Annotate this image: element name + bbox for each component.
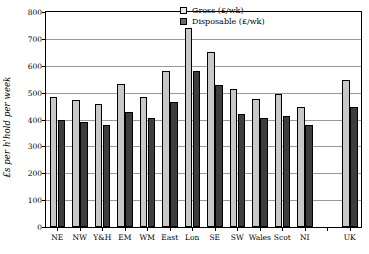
y-axis-title: £s per h'hold per week: [0, 0, 14, 254]
bar-disposable: [193, 71, 201, 227]
bar-group: [226, 12, 249, 227]
x-axis-tick-label: EM: [118, 233, 131, 242]
bar-gross: [297, 107, 305, 227]
bar-gross: [185, 28, 193, 227]
legend-item: Gross (£/wk): [180, 6, 265, 15]
bar-group: [159, 12, 182, 227]
bar-disposable: [260, 118, 268, 227]
y-axis-tick-label: 800: [28, 8, 42, 17]
y-axis-tick-label: 600: [28, 61, 42, 70]
x-axis-tick-mark: [57, 227, 58, 231]
x-axis-tick-label: East: [161, 233, 178, 242]
x-axis-tick-mark: [215, 227, 216, 231]
bar-disposable: [215, 85, 223, 227]
bar-gross: [162, 71, 170, 227]
x-axis-tick-label: Lon: [185, 233, 199, 242]
x-axis-tick-label: Wales: [249, 233, 271, 242]
legend-swatch-disposable-icon: [180, 18, 187, 25]
x-axis-tick-label: NI: [300, 233, 310, 242]
y-axis-tick-label: 400: [28, 115, 42, 124]
x-axis-tick-label: Y&H: [93, 233, 111, 242]
x-axis-tick-label: SE: [209, 233, 220, 242]
bar-gross: [72, 100, 80, 227]
x-axis-tick-mark: [237, 227, 238, 231]
bar-chart: £s per h'hold per week 01002003004005006…: [0, 0, 369, 254]
bar-gross: [342, 80, 350, 227]
bar-group: [136, 12, 159, 227]
bar-disposable: [305, 125, 313, 227]
y-axis-tick-label: 300: [28, 142, 42, 151]
legend-item: Disposable (£/wk): [180, 17, 265, 26]
y-axis-tick-label: 700: [28, 34, 42, 43]
bar-group: [339, 12, 362, 227]
bar-gross: [275, 94, 283, 227]
x-axis-tick-label: NE: [51, 233, 63, 242]
bar-disposable: [238, 114, 246, 227]
legend-swatch-gross-icon: [180, 7, 187, 14]
x-axis-tick-label: WM: [140, 233, 155, 242]
x-axis-tick-mark: [102, 227, 103, 231]
bar-group: [69, 12, 92, 227]
bar-group: [271, 12, 294, 227]
bar-gross: [95, 104, 103, 227]
bar-group: [249, 12, 272, 227]
legend-label: Disposable (£/wk): [192, 17, 265, 26]
bar-disposable: [103, 125, 111, 227]
x-axis-tick-label: SW: [231, 233, 244, 242]
bars-layer: NENWY&HEMWMEastLonSESWWalesScotNIUK: [46, 12, 361, 227]
x-axis-tick-mark: [80, 227, 81, 231]
bar-gross: [252, 99, 260, 227]
x-axis-tick-mark: [305, 227, 306, 231]
bar-group: [91, 12, 114, 227]
bar-disposable: [350, 107, 358, 227]
bar-gross: [207, 52, 215, 227]
y-axis-tick-mark: [42, 227, 46, 228]
x-axis-tick-label: Scot: [274, 233, 291, 242]
bar-gross: [230, 89, 238, 227]
bar-group: [316, 12, 339, 227]
legend-label: Gross (£/wk): [192, 6, 244, 15]
y-axis-tick-label: 200: [28, 169, 42, 178]
bar-gross: [140, 97, 148, 227]
y-axis-tick-label: 500: [28, 88, 42, 97]
bar-disposable: [283, 116, 291, 227]
bar-group: [294, 12, 317, 227]
y-axis-tick-label: 100: [28, 196, 42, 205]
x-axis-tick-mark: [282, 227, 283, 231]
bar-disposable: [58, 120, 66, 228]
x-axis-tick-mark: [147, 227, 148, 231]
x-axis-tick-label: UK: [344, 233, 356, 242]
plot-area: 0100200300400500600700800 NENWY&HEMWMEas…: [45, 11, 362, 228]
bar-disposable: [148, 118, 156, 227]
bar-gross: [50, 97, 58, 227]
x-axis-tick-mark: [170, 227, 171, 231]
bar-disposable: [170, 102, 178, 227]
bar-group: [46, 12, 69, 227]
bar-group: [181, 12, 204, 227]
bar-gross: [117, 84, 125, 228]
bar-group: [114, 12, 137, 227]
x-axis-tick-label: NW: [73, 233, 87, 242]
x-axis-tick-mark: [327, 227, 328, 231]
x-axis-tick-mark: [125, 227, 126, 231]
x-axis-tick-mark: [260, 227, 261, 231]
legend: Gross (£/wk)Disposable (£/wk): [176, 4, 269, 29]
bar-disposable: [125, 112, 133, 227]
bar-disposable: [80, 122, 88, 227]
x-axis-tick-mark: [350, 227, 351, 231]
bar-group: [204, 12, 227, 227]
x-axis-tick-mark: [192, 227, 193, 231]
